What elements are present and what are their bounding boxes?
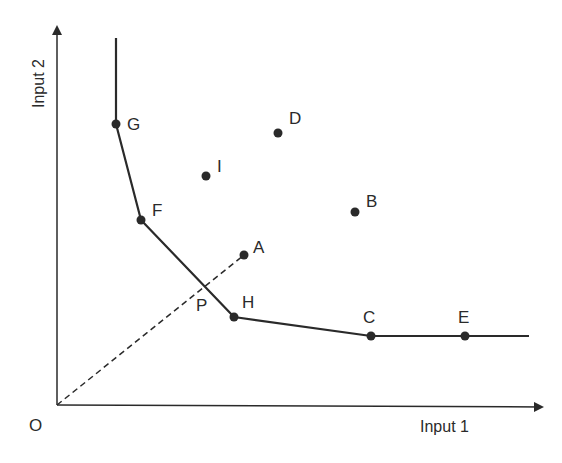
point-label: I: [217, 157, 222, 176]
origin-label: O: [29, 416, 42, 435]
point-label: B: [366, 192, 377, 211]
point-D: D: [274, 109, 302, 138]
point-label: H: [242, 293, 254, 312]
x-axis: [57, 405, 542, 407]
point-label: E: [458, 308, 469, 327]
point-label: A: [253, 238, 265, 257]
intersection-label-P: P: [196, 296, 207, 315]
point-A: A: [240, 238, 266, 260]
point-F: F: [137, 201, 163, 225]
point-label: F: [152, 201, 162, 220]
point-B: B: [351, 192, 378, 217]
point-label: G: [127, 115, 140, 134]
y-axis-label: Input 2: [30, 59, 47, 108]
isoquant-diagram: Input 2 Input 1 O G F H C E I D B A P: [0, 0, 562, 463]
point-I: I: [202, 157, 222, 181]
point-label: C: [363, 308, 375, 327]
isoquant-frontier: [116, 38, 529, 336]
x-axis-label: Input 1: [420, 418, 469, 435]
projection-ray: [57, 255, 244, 405]
point-label: D: [289, 109, 301, 128]
